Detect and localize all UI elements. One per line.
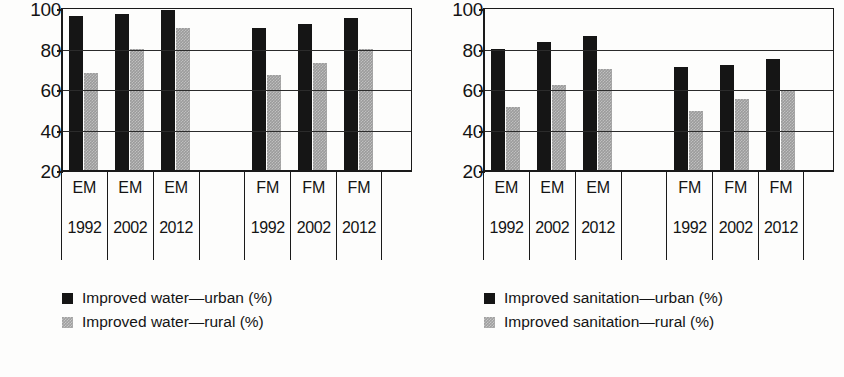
category-cell: FM2002 bbox=[290, 172, 336, 260]
legend-item-rural: Improved water—rural (%) bbox=[62, 310, 272, 334]
category-cell: EM2002 bbox=[529, 172, 575, 260]
bar-rural bbox=[359, 49, 373, 171]
category-year-label: 1992 bbox=[667, 220, 712, 236]
category-group-label: EM bbox=[530, 180, 575, 196]
chart-panel-water: 10080604020 EM1992EM2002EM2012FM1992FM20… bbox=[0, 0, 422, 377]
category-year-label: 2002 bbox=[108, 220, 153, 236]
category-group-label: EM bbox=[154, 180, 199, 196]
category-year-label: 2012 bbox=[154, 220, 199, 236]
legend-swatch-urban-icon bbox=[62, 293, 73, 304]
bar-urban bbox=[583, 36, 597, 170]
legend-item-urban: Improved sanitation—urban (%) bbox=[484, 286, 723, 310]
category-group-label: EM bbox=[484, 180, 529, 196]
chart-page: 10080604020 EM1992EM2002EM2012FM1992FM20… bbox=[0, 0, 844, 377]
legend-label-urban: Improved sanitation—urban (%) bbox=[504, 290, 723, 306]
category-cell: FM2012 bbox=[336, 172, 382, 260]
bar-rural bbox=[735, 99, 749, 170]
category-year-label: 1992 bbox=[484, 220, 529, 236]
category-group-label: FM bbox=[337, 180, 381, 196]
bar-urban bbox=[69, 16, 83, 170]
legend-label-rural: Improved sanitation—rural (%) bbox=[504, 314, 714, 330]
category-year-label: 2002 bbox=[530, 220, 575, 236]
category-year-label: 1992 bbox=[62, 220, 107, 236]
bar-urban bbox=[766, 59, 780, 170]
category-group-label: EM bbox=[62, 180, 107, 196]
bar-rural bbox=[506, 107, 520, 170]
bar-rural bbox=[130, 49, 144, 171]
gridline bbox=[485, 90, 833, 91]
bar-urban bbox=[344, 18, 358, 170]
category-cell: EM1992 bbox=[61, 172, 107, 260]
category-year-label: 2012 bbox=[337, 220, 381, 236]
category-group-label: FM bbox=[759, 180, 803, 196]
plot-area-sanitation: 10080604020 bbox=[452, 8, 834, 180]
category-cell: FM1992 bbox=[244, 172, 290, 260]
gridline bbox=[63, 131, 411, 132]
bar-rural bbox=[598, 69, 612, 170]
gridline bbox=[485, 131, 833, 132]
plot-area-water: 10080604020 bbox=[30, 8, 412, 180]
category-cell: EM2012 bbox=[153, 172, 199, 260]
plot-frame-water bbox=[61, 8, 412, 172]
bar-urban bbox=[674, 67, 688, 170]
category-table-sanitation: EM1992EM2002EM2012FM1992FM2002FM2012 bbox=[483, 172, 804, 260]
gridline bbox=[485, 50, 833, 51]
chart-panel-sanitation: 10080604020 EM1992EM2002EM2012FM1992FM20… bbox=[422, 0, 844, 377]
legend-item-urban: Improved water—urban (%) bbox=[62, 286, 272, 310]
plot-frame-sanitation bbox=[483, 8, 834, 172]
y-tick-mark bbox=[57, 9, 63, 11]
category-cell: EM2012 bbox=[575, 172, 621, 260]
bar-urban bbox=[537, 42, 551, 170]
bar-rural bbox=[689, 111, 703, 170]
legend-label-rural: Improved water—rural (%) bbox=[82, 314, 264, 330]
legend-swatch-rural-icon bbox=[62, 317, 73, 328]
legend-sanitation: Improved sanitation—urban (%) Improved s… bbox=[484, 286, 723, 334]
category-cell: EM1992 bbox=[483, 172, 529, 260]
category-year-label: 2002 bbox=[713, 220, 758, 236]
category-cell: FM1992 bbox=[666, 172, 712, 260]
category-group-label: FM bbox=[667, 180, 712, 196]
category-group-label: FM bbox=[291, 180, 336, 196]
category-cell bbox=[621, 172, 667, 260]
category-group-label: EM bbox=[576, 180, 621, 196]
category-year-label: 2002 bbox=[291, 220, 336, 236]
category-cell bbox=[199, 172, 245, 260]
category-cell: FM2002 bbox=[712, 172, 758, 260]
y-tick-mark bbox=[479, 9, 485, 11]
legend-swatch-urban-icon bbox=[484, 293, 495, 304]
bar-urban bbox=[720, 65, 734, 170]
bar-rural bbox=[313, 63, 327, 170]
category-group-label: FM bbox=[245, 180, 290, 196]
legend-label-urban: Improved water—urban (%) bbox=[82, 290, 272, 306]
gridline bbox=[63, 50, 411, 51]
category-cell: EM2002 bbox=[107, 172, 153, 260]
bar-urban bbox=[298, 24, 312, 170]
bar-urban bbox=[115, 14, 129, 170]
bar-rural bbox=[84, 73, 98, 170]
category-table-water: EM1992EM2002EM2012FM1992FM2002FM2012 bbox=[61, 172, 382, 260]
category-cell: FM2012 bbox=[758, 172, 804, 260]
category-year-label: 2012 bbox=[759, 220, 803, 236]
legend-item-rural: Improved sanitation—rural (%) bbox=[484, 310, 723, 334]
legend-water: Improved water—urban (%) Improved water—… bbox=[62, 286, 272, 334]
category-group-label: EM bbox=[108, 180, 153, 196]
bar-rural bbox=[552, 85, 566, 170]
category-group-label: FM bbox=[713, 180, 758, 196]
category-year-label: 2012 bbox=[576, 220, 621, 236]
category-year-label: 1992 bbox=[245, 220, 290, 236]
bar-urban bbox=[491, 49, 505, 171]
gridline bbox=[63, 90, 411, 91]
legend-swatch-rural-icon bbox=[484, 317, 495, 328]
